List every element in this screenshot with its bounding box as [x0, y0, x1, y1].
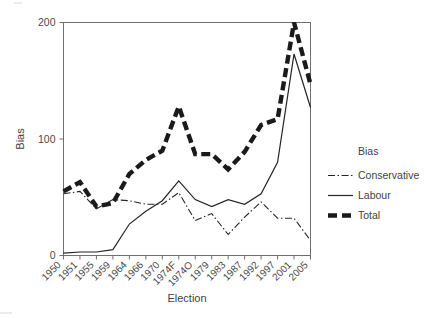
y-tick-label: 200 [38, 16, 56, 28]
bias-by-election-line-chart: 0100200 19501951195519591964196619701974… [0, 0, 429, 318]
scan-edge-artifact-bottom [0, 312, 12, 314]
legend-title: Bias [358, 145, 378, 157]
chart-figure: 0100200 19501951195519591964196619701974… [0, 0, 429, 318]
x-axis-title: Election [167, 292, 206, 304]
legend-label-labour: Labour [358, 189, 391, 201]
scan-edge-artifact-top [14, 2, 22, 4]
legend-label-total: Total [358, 209, 380, 221]
legend-label-conservative: Conservative [358, 169, 419, 181]
y-tick-label: 100 [38, 133, 56, 145]
y-axis-title: Bias [14, 128, 26, 150]
